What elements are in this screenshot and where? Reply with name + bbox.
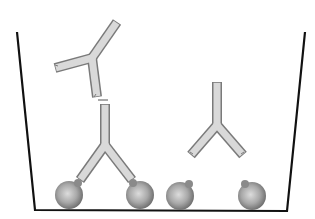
bead-4 — [238, 180, 266, 210]
bead-1 — [55, 179, 83, 209]
antibody-bound-middle — [80, 104, 132, 180]
bead-3 — [166, 180, 194, 210]
antibody-binding-diagram — [0, 0, 315, 219]
antibody-free-top-left — [55, 22, 117, 100]
antibody-free-right — [190, 82, 244, 155]
bead-2 — [126, 179, 154, 209]
diagram-canvas: Antibody-antigen binding illustration: f… — [0, 0, 315, 219]
